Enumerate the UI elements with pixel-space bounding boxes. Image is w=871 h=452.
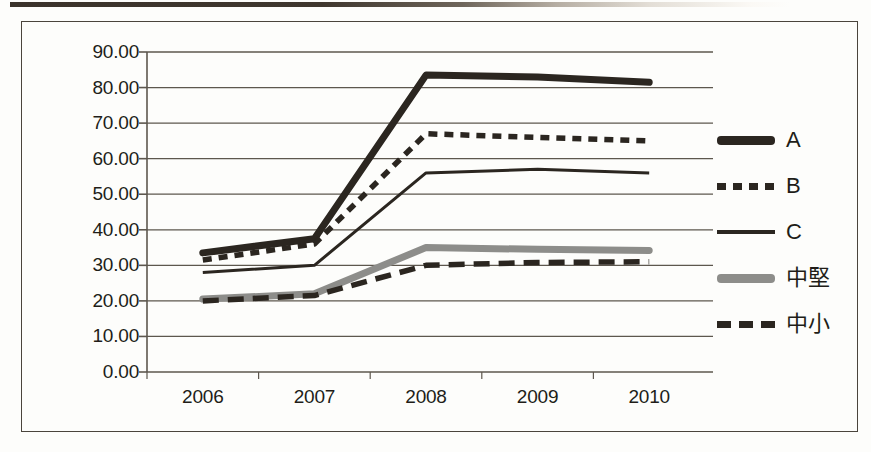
x-tick-label: 2009	[517, 386, 558, 408]
legend-swatch-icon	[717, 321, 775, 328]
legend-label: 中小	[786, 313, 830, 335]
x-tick-label: 2008	[405, 386, 446, 408]
x-tick-label: 2007	[294, 386, 335, 408]
legend-label: A	[786, 129, 801, 151]
legend-swatch-icon	[717, 183, 775, 190]
gridlines	[147, 52, 713, 372]
legend-swatch-icon	[717, 274, 775, 283]
series-line-中堅	[203, 248, 649, 300]
legend-label: B	[786, 175, 801, 197]
axis-lines	[139, 52, 593, 379]
legend-swatch-icon	[717, 230, 775, 234]
scan-artifact-bar	[10, 2, 790, 7]
legend-item-C[interactable]: C	[717, 209, 857, 255]
legend-item-中小[interactable]: 中小	[717, 301, 857, 347]
x-tick-label: 2006	[182, 386, 223, 408]
series-line-C	[203, 169, 649, 272]
legend-label: 中堅	[786, 267, 830, 289]
legend-item-B[interactable]: B	[717, 163, 857, 209]
chart-frame: 90.0080.0070.0060.0050.0040.0030.0020.00…	[21, 21, 858, 432]
series-lines	[203, 75, 649, 301]
x-tick-label: 2010	[628, 386, 669, 408]
legend-label: C	[786, 221, 802, 243]
legend-item-中堅[interactable]: 中堅	[717, 255, 857, 301]
series-line-A	[203, 75, 649, 253]
chart-legend: ABC中堅中小	[717, 117, 857, 347]
legend-item-A[interactable]: A	[717, 117, 857, 163]
legend-swatch-icon	[717, 136, 775, 145]
